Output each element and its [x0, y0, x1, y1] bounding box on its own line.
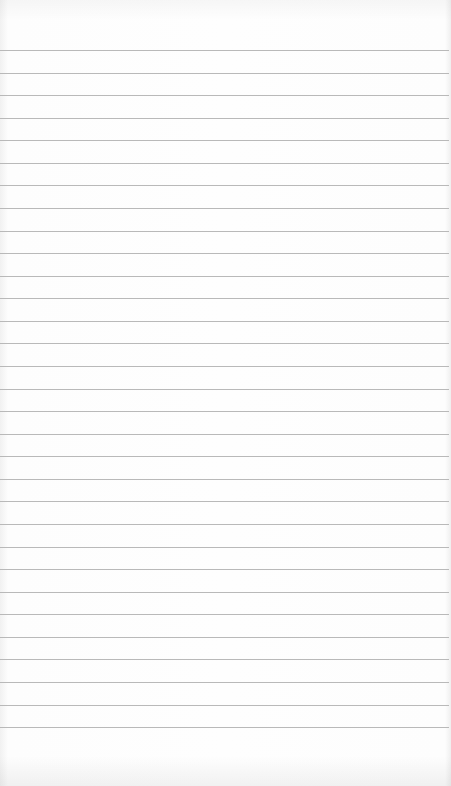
ruled-line	[0, 140, 449, 141]
ruled-line	[0, 434, 449, 435]
ruled-line	[0, 163, 449, 164]
ruled-line	[0, 524, 449, 525]
ruled-line	[0, 479, 449, 480]
ruled-line	[0, 659, 449, 660]
ruled-line	[0, 208, 449, 209]
lined-paper-page	[0, 0, 451, 786]
ruled-line	[0, 50, 449, 51]
ruled-line	[0, 73, 449, 74]
ruled-line	[0, 411, 449, 412]
ruled-line	[0, 231, 449, 232]
ruled-line	[0, 727, 449, 728]
ruled-line	[0, 501, 449, 502]
ruled-line	[0, 705, 449, 706]
ruled-line	[0, 637, 449, 638]
ruled-line	[0, 614, 449, 615]
ruled-line	[0, 95, 449, 96]
ruled-line	[0, 298, 449, 299]
ruled-line	[0, 547, 449, 548]
ruled-line	[0, 389, 449, 390]
ruled-line	[0, 343, 449, 344]
ruled-line	[0, 456, 449, 457]
ruled-line	[0, 569, 449, 570]
ruled-line	[0, 366, 449, 367]
ruled-line	[0, 253, 449, 254]
ruled-line	[0, 185, 449, 186]
ruled-line	[0, 118, 449, 119]
ruled-line	[0, 592, 449, 593]
ruled-line	[0, 321, 449, 322]
ruled-line	[0, 682, 449, 683]
ruled-line	[0, 276, 449, 277]
